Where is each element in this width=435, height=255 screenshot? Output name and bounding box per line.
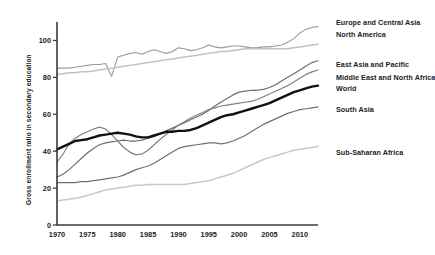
series-line-europe-and-central-asia <box>57 27 318 77</box>
y-tick-label: 40 <box>43 147 51 156</box>
y-tick-label: 80 <box>43 73 51 82</box>
y-tick-label: 0 <box>47 221 51 230</box>
x-tick-label: 2010 <box>292 230 308 239</box>
x-tick-label: 1995 <box>201 230 217 239</box>
x-tick-label: 2005 <box>261 230 277 239</box>
axes-group <box>57 22 318 225</box>
x-tick-label: 2000 <box>231 230 247 239</box>
x-tick-labels: 197019751980198519901995200020052010 <box>49 230 308 239</box>
series-group <box>57 27 318 201</box>
x-tick-label: 1975 <box>79 230 95 239</box>
x-tick-label: 1970 <box>49 230 65 239</box>
series-line-sub-saharan-africa <box>57 147 318 201</box>
y-tick-label: 100 <box>39 36 51 45</box>
x-tick-label: 1980 <box>109 230 125 239</box>
y-tick-labels: 020406080100 <box>39 36 57 230</box>
y-axis-title: Gross enrollment ratio in secondary educ… <box>25 54 33 205</box>
x-tick-label: 1990 <box>170 230 186 239</box>
y-tick-label: 60 <box>43 110 51 119</box>
series-line-east-asia-and-pacific <box>57 61 318 177</box>
series-line-north-america <box>57 44 318 74</box>
axis-lines <box>57 22 318 225</box>
x-tick-label: 1985 <box>140 230 156 239</box>
series-line-south-asia <box>57 107 318 183</box>
series-line-middle-east-and-north-africa <box>57 70 318 162</box>
y-tick-label: 20 <box>43 184 51 193</box>
